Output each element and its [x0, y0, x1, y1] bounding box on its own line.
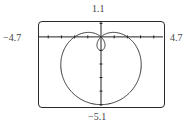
- ymin-label: −5.1: [88, 112, 106, 122]
- ymax-label: 1.1: [92, 4, 105, 14]
- axes: [39, 22, 163, 106]
- calculator-graph-screen: [38, 21, 165, 108]
- xmin-label: −4.7: [3, 33, 21, 43]
- polar-plot: [39, 22, 163, 106]
- xmax-label: 4.7: [170, 33, 183, 43]
